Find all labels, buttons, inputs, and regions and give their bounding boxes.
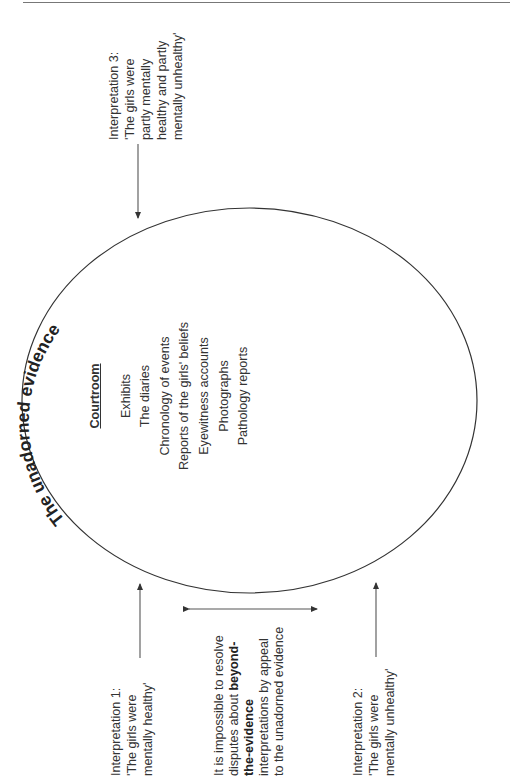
interpretation-1-line: 'The girls were [124, 683, 140, 776]
dispute-note-line: the-evidence [242, 627, 257, 776]
interpretation-1-title: Interpretation 1: [108, 683, 124, 776]
dispute-note-line: disputes about beyond- [227, 627, 242, 776]
interpretation-2-line: 'The girls were [366, 669, 382, 776]
interpretation-3-line: 'The girls were [122, 33, 138, 140]
evidence-item: Reports of the girls' beliefs [175, 246, 195, 546]
diagram-title: The unadorned evidence [13, 320, 68, 530]
evidence-item: Pathology reports [234, 246, 254, 546]
diagram-page: The unadorned evidence Courtroom Exhibit… [0, 0, 510, 783]
interpretation-3-label: Interpretation 3: 'The girls were partly… [106, 33, 186, 140]
dispute-note-bold: the-evidence [242, 699, 256, 776]
evidence-item: Exhibits [117, 246, 137, 546]
dispute-note-bold: beyond- [227, 642, 241, 691]
dispute-note-line: It is impossible to resolve [212, 627, 227, 776]
interpretation-3-line: partly mentally [138, 33, 154, 140]
interpretation-2-line: mentally unhealthy' [382, 669, 398, 776]
evidence-item: Chronology of events [156, 246, 176, 546]
evidence-list: Courtroom Exhibits The diaries Chronolog… [86, 246, 254, 546]
dispute-note-line: interpretations by appeal [257, 627, 272, 776]
evidence-item: Photographs [215, 246, 235, 546]
interpretation-1-line: mentally healthy' [140, 683, 156, 776]
evidence-item: Eyewitness accounts [195, 246, 215, 546]
dispute-note-text: disputes about [227, 691, 241, 776]
courtroom-heading: Courtroom [86, 246, 106, 546]
dispute-note: It is impossible to resolve disputes abo… [212, 627, 287, 776]
interpretation-3-title: Interpretation 3: [106, 33, 122, 140]
interpretation-2-title: Interpretation 2: [350, 669, 366, 776]
dispute-note-line: to the unadorned evidence [272, 627, 287, 776]
interpretation-1-label: Interpretation 1: 'The girls were mental… [108, 683, 156, 776]
interpretation-3-line: healthy and partly [154, 33, 170, 140]
diagram-title-text: The unadorned evidence [13, 320, 68, 530]
interpretation-3-line: mentally unhealthy' [170, 33, 186, 140]
interpretation-2-label: Interpretation 2: 'The girls were mental… [350, 669, 398, 776]
evidence-item: The diaries [136, 246, 156, 546]
